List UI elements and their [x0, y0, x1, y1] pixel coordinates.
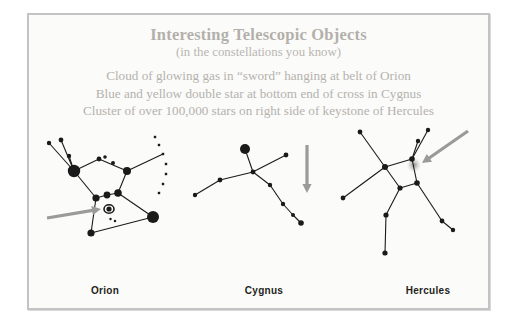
- constellation-line: [220, 172, 253, 180]
- constellation-line: [270, 185, 283, 204]
- constellation-line: [127, 154, 163, 171]
- star-point: [67, 154, 71, 158]
- star-point: [104, 192, 111, 199]
- bullet-line-hercules: Cluster of over 100,000 stars on right s…: [29, 102, 488, 120]
- panel-hercules: Hercules: [329, 127, 489, 302]
- star-point: [268, 183, 272, 187]
- constellation-line: [360, 132, 385, 167]
- constellation-line: [253, 155, 286, 172]
- star-point: [358, 130, 363, 135]
- star-point: [147, 211, 159, 223]
- star-point: [106, 206, 111, 211]
- star-point: [382, 250, 387, 255]
- hercules-pointer-arrow: [422, 131, 468, 163]
- star-point: [111, 161, 115, 165]
- bullet-line-cygnus: Blue and yellow double star at bottom en…: [29, 85, 488, 103]
- star-point: [92, 194, 99, 201]
- star-point: [240, 144, 250, 154]
- panel-label-orion: Orion: [19, 285, 191, 296]
- orion-star-map: [35, 127, 207, 267]
- page-subtitle: (in the constellations you know): [29, 45, 488, 61]
- constellation-line: [417, 183, 442, 221]
- orion-constellation-lines: [49, 140, 163, 233]
- cygnus-star-map: [189, 127, 339, 267]
- hercules-star-map: [329, 127, 489, 267]
- star-point: [284, 153, 289, 158]
- star-point: [193, 193, 197, 197]
- star-point: [87, 229, 94, 236]
- constellation-line: [91, 198, 96, 233]
- hercules-constellation-lines: [343, 130, 453, 253]
- constellation-line: [195, 180, 220, 195]
- star-point: [298, 220, 304, 226]
- constellation-line: [118, 193, 153, 217]
- dotted-arc-point: [162, 153, 164, 155]
- star-point: [218, 178, 223, 183]
- constellation-line: [386, 188, 400, 215]
- star-point: [451, 228, 455, 232]
- slide-card: Interesting Telescopic Objects (in the c…: [27, 13, 490, 310]
- constellation-line: [385, 215, 386, 253]
- constellation-line: [253, 172, 270, 185]
- star-point: [341, 196, 346, 201]
- constellation-line: [385, 167, 400, 188]
- orion-dotted-arc: [154, 136, 167, 194]
- panel-label-cygnus: Cygnus: [189, 285, 339, 296]
- bullet-list: Cloud of glowing gas in “sword” hanging …: [29, 67, 488, 120]
- orion-arrow-head: [91, 206, 101, 215]
- star-point: [440, 219, 445, 224]
- panel-orion: Orion: [35, 127, 207, 302]
- dotted-arc-point: [158, 192, 160, 194]
- heading-block: Interesting Telescopic Objects (in the c…: [29, 26, 488, 61]
- star-point: [47, 141, 51, 145]
- star-point: [414, 180, 420, 186]
- constellation-line: [91, 217, 153, 233]
- star-point: [123, 167, 131, 175]
- star-point: [251, 170, 256, 175]
- star-point: [416, 139, 420, 143]
- page-title: Interesting Telescopic Objects: [29, 26, 488, 43]
- constellation-panels: Orion Cygnus: [29, 127, 488, 302]
- star-point: [426, 128, 430, 132]
- star-point: [382, 164, 388, 170]
- dotted-arc-point: [162, 183, 164, 185]
- orion-arrow-shaft: [47, 210, 94, 218]
- star-point: [397, 185, 402, 190]
- sword-star: [114, 220, 116, 222]
- star-point: [103, 155, 107, 159]
- star-point: [409, 156, 415, 162]
- constellation-line: [412, 130, 428, 159]
- cygnus-arrow-head: [302, 184, 311, 193]
- dotted-arc-point: [165, 163, 167, 165]
- panel-label-hercules: Hercules: [348, 285, 508, 296]
- orion-stars: [47, 138, 159, 237]
- dotted-arc-point: [165, 173, 167, 175]
- dotted-arc-point: [154, 136, 156, 138]
- star-point: [68, 165, 80, 177]
- constellation-line: [343, 167, 385, 198]
- constellation-line: [283, 204, 293, 215]
- bullet-line-orion: Cloud of glowing gas in “sword” hanging …: [29, 67, 488, 85]
- cygnus-constellation-lines: [195, 149, 301, 223]
- star-point: [114, 189, 122, 197]
- star-point: [383, 212, 388, 217]
- cygnus-pointer-arrow: [302, 145, 311, 193]
- star-point: [281, 202, 285, 206]
- panel-cygnus: Cygnus: [189, 127, 339, 302]
- star-point: [97, 157, 102, 162]
- slide-root: Interesting Telescopic Objects (in the c…: [0, 0, 517, 329]
- sword-star: [109, 218, 111, 220]
- cygnus-stars: [193, 144, 304, 226]
- dotted-arc-point: [158, 144, 160, 146]
- star-point: [59, 138, 64, 143]
- star-point: [291, 213, 295, 217]
- hercules-arrow-shaft: [428, 131, 468, 159]
